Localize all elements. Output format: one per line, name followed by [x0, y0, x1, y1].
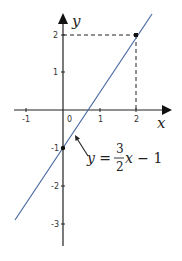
y-tick-label-neg3: -3	[51, 220, 59, 229]
eq-numerator: 3	[116, 142, 124, 156]
y-tick-label-1: 1	[53, 68, 58, 77]
eq-rhs-tail: − 1	[133, 150, 163, 166]
x-axis-label: x	[157, 114, 166, 132]
y-tick-label-2: 2	[53, 31, 58, 40]
eq-lhs: y =	[86, 150, 111, 166]
x-tick-label-2: 2	[134, 115, 139, 124]
point-2-2	[134, 33, 138, 37]
point-y-intercept	[61, 146, 65, 150]
y-axis-label: y	[71, 12, 81, 30]
eq-denominator: 2	[116, 160, 124, 174]
svg-text:x − 1: x − 1	[125, 150, 162, 166]
function-line	[15, 14, 152, 220]
x-tick-label-neg1: -1	[22, 115, 30, 124]
y-tick-label-neg1: -1	[51, 144, 59, 153]
x-tick-label-1: 1	[98, 115, 103, 124]
svg-text:y =: y =	[86, 150, 111, 166]
equation-label: y = 3 2 x − 1	[86, 142, 162, 174]
origin-label: 0	[67, 115, 72, 124]
linear-function-graph: -1 0 1 2 2 1 -1 -2 -3 y x y = 3 2 x − 1	[0, 0, 182, 261]
eq-rhs-x: x	[125, 150, 133, 166]
y-axis-arrow-icon	[58, 13, 68, 24]
y-tick-label-neg2: -2	[51, 182, 59, 191]
